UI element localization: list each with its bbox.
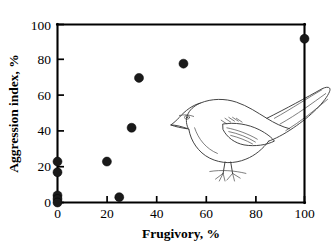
y-tick-label: 20 <box>38 159 52 174</box>
x-tick-label: 40 <box>150 206 164 221</box>
x-tick-label: 0 <box>54 206 61 221</box>
y-axis-title: Aggression index, % <box>6 54 21 173</box>
y-tick-labels: 0 20 40 60 80 100 <box>31 18 52 211</box>
y-tick-label: 60 <box>38 88 52 103</box>
x-tick-label: 100 <box>294 206 315 221</box>
x-tick-label: 80 <box>249 206 263 221</box>
y-tick-label: 0 <box>44 195 51 210</box>
data-point <box>53 168 62 177</box>
plot-area-background <box>57 24 305 203</box>
y-tick-label: 100 <box>31 18 52 33</box>
scatter-chart-figure: 0 20 40 60 80 100 0 20 40 60 80 100 Frug… <box>0 0 333 252</box>
x-tick-labels: 0 20 40 60 80 100 <box>54 206 315 221</box>
x-tick-label: 60 <box>200 206 214 221</box>
data-point <box>127 123 136 132</box>
data-point <box>102 157 111 166</box>
data-point <box>300 34 309 43</box>
data-point <box>53 198 62 207</box>
y-tick-label: 80 <box>38 52 52 67</box>
data-point <box>135 73 144 82</box>
x-axis-title: Frugivory, % <box>142 226 220 241</box>
data-point <box>115 193 124 202</box>
y-tick-label: 40 <box>38 123 52 138</box>
data-point <box>179 59 188 68</box>
data-point <box>53 157 62 166</box>
x-tick-label: 20 <box>100 206 114 221</box>
